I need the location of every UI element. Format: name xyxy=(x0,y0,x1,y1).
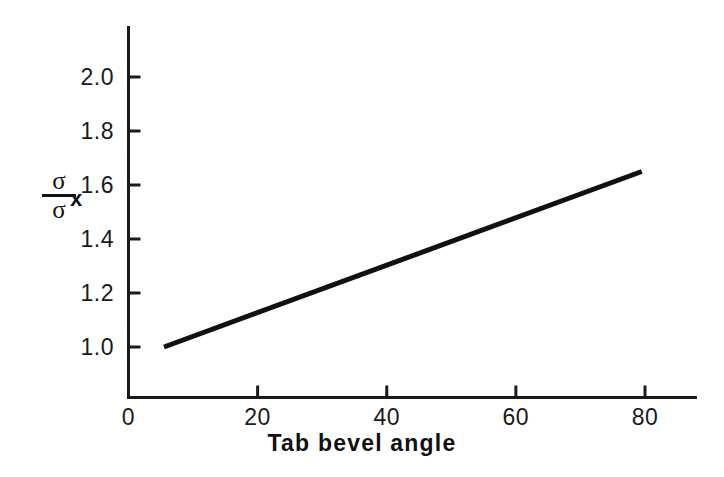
data-line xyxy=(164,172,642,348)
y-axis-label-subscript: x xyxy=(70,188,82,210)
x-tick-label: 40 xyxy=(373,404,400,431)
x-tick-label: 20 xyxy=(244,404,271,431)
y-tick-label: 1.8 xyxy=(40,118,114,145)
x-tick-label: 60 xyxy=(503,404,530,431)
y-tick-label: 1.2 xyxy=(40,280,114,307)
y-tick-label: 2.0 xyxy=(40,64,114,91)
x-tick-label: 0 xyxy=(122,404,135,431)
y-tick-label: 1.0 xyxy=(40,334,114,361)
y-axis-ticks xyxy=(129,77,141,347)
x-axis-label: Tab bevel angle xyxy=(0,430,724,457)
x-axis-ticks xyxy=(129,386,646,398)
axis-spines xyxy=(127,26,697,398)
data-series-group xyxy=(164,172,642,348)
y-axis-label: σ σ x xyxy=(42,168,94,232)
x-tick-label: 80 xyxy=(632,404,659,431)
chart-figure: 1.01.21.41.61.82.0 020406080 σ σ x Tab b… xyxy=(0,0,724,477)
y-axis-label-fraction: σ σ x xyxy=(42,168,76,223)
